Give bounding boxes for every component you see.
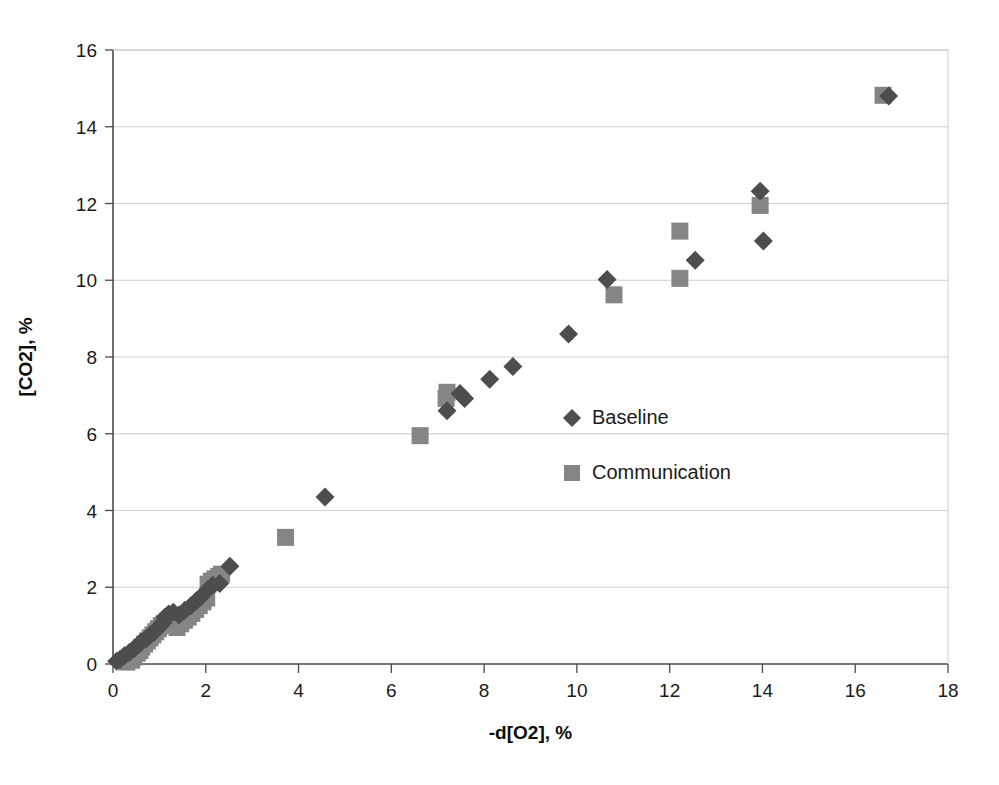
y-axis-title: [CO2], %: [15, 317, 36, 396]
x-tick-label-0: 0: [108, 680, 119, 701]
x-tick-label-6: 6: [386, 680, 397, 701]
point-communication-31: [277, 529, 294, 546]
point-baseline-33: [686, 251, 705, 270]
x-tick-label-18: 18: [937, 680, 958, 701]
grid-layer: [113, 50, 948, 587]
y-tick-label-12: 12: [76, 194, 97, 215]
y-tick-label-4: 4: [86, 501, 97, 522]
y-tick-label-0: 0: [86, 654, 97, 675]
x-tick-label-2: 2: [200, 680, 211, 701]
y-tick-label-16: 16: [76, 40, 97, 61]
point-baseline-32: [598, 270, 617, 289]
x-tick-label-4: 4: [293, 680, 304, 701]
y-tick-label-14: 14: [76, 117, 98, 138]
scatter-chart: 0246810121416024681012141618 -d[O2], %[C…: [0, 0, 999, 785]
point-baseline-29: [480, 370, 499, 389]
legend-marker-baseline: [563, 409, 581, 427]
y-tick-label-10: 10: [76, 270, 97, 291]
point-communication-37: [671, 223, 688, 240]
y-tick-label-2: 2: [86, 577, 97, 598]
x-tick-label-10: 10: [566, 680, 587, 701]
point-baseline-30: [503, 357, 522, 376]
point-baseline-35: [754, 232, 773, 251]
x-tick-label-12: 12: [659, 680, 680, 701]
legend-label-communication: Communication: [592, 461, 731, 483]
series-baseline: [107, 87, 898, 671]
point-communication-35: [606, 286, 623, 303]
data-points-layer: [107, 87, 898, 671]
x-tick-label-8: 8: [479, 680, 490, 701]
chart-legend: BaselineCommunication: [563, 406, 731, 483]
legend-marker-communication: [564, 465, 580, 481]
chart-canvas: 0246810121416024681012141618 -d[O2], %[C…: [0, 0, 999, 785]
series-communication: [118, 87, 891, 671]
x-axis-title: -d[O2], %: [489, 722, 572, 743]
point-baseline-25: [315, 488, 334, 507]
point-baseline-31: [559, 324, 578, 343]
legend-label-baseline: Baseline: [592, 406, 669, 428]
x-tick-label-16: 16: [845, 680, 866, 701]
point-communication-32: [412, 427, 429, 444]
y-tick-label-8: 8: [86, 347, 97, 368]
point-communication-36: [671, 270, 688, 287]
y-tick-label-6: 6: [86, 424, 97, 445]
x-tick-label-14: 14: [752, 680, 774, 701]
